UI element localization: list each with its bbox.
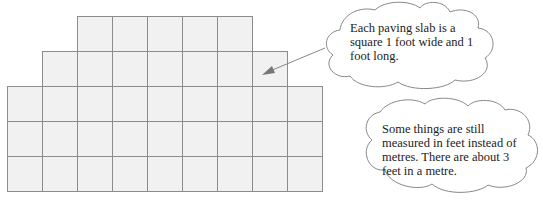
paving-slab	[288, 157, 323, 192]
paving-slabs	[8, 17, 323, 192]
paving-slab	[253, 87, 288, 122]
paving-slab	[113, 122, 148, 157]
paving-slab	[183, 157, 218, 192]
paving-slab	[8, 87, 43, 122]
paving-slab	[43, 52, 78, 87]
paving-slab	[148, 52, 183, 87]
paving-slab	[113, 52, 148, 87]
paving-slab	[253, 157, 288, 192]
paving-slab	[43, 87, 78, 122]
paving-slab	[218, 17, 253, 52]
paving-slab	[78, 87, 113, 122]
paving-slab	[218, 157, 253, 192]
paving-slab	[218, 52, 253, 87]
paving-slab	[113, 17, 148, 52]
paving-slab	[218, 122, 253, 157]
paving-slab	[113, 157, 148, 192]
paving-slab	[78, 17, 113, 52]
paving-slab	[183, 52, 218, 87]
paving-slab	[148, 122, 183, 157]
paving-slab	[148, 157, 183, 192]
paving-slab	[8, 122, 43, 157]
paving-slab	[183, 87, 218, 122]
paving-slab	[78, 52, 113, 87]
paving-slab	[113, 87, 148, 122]
paving-slab	[183, 17, 218, 52]
paving-slab	[78, 157, 113, 192]
paving-slab	[43, 157, 78, 192]
paving-slab	[183, 122, 218, 157]
paving-slab	[288, 87, 323, 122]
callout-text-1: Each paving slab is a square 1 foot wide…	[350, 21, 480, 63]
paving-slab	[148, 87, 183, 122]
paving-slab	[78, 122, 113, 157]
paving-slab	[43, 122, 78, 157]
paving-slab	[218, 87, 253, 122]
paving-slab	[288, 122, 323, 157]
paving-slab	[148, 17, 183, 52]
paving-slab	[253, 122, 288, 157]
paving-slab	[8, 157, 43, 192]
callout-text-2: Some things are still measured in feet i…	[382, 122, 530, 178]
